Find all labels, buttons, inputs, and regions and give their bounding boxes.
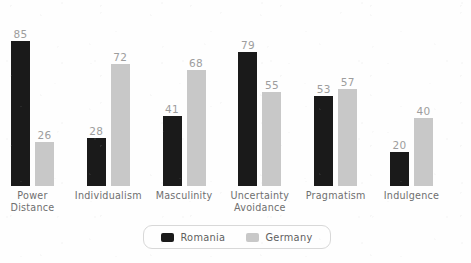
bar-germany-power-distance[interactable]: 26 (35, 0, 54, 186)
bar-rect (390, 152, 409, 186)
bar-germany-indulgence[interactable]: 40 (414, 0, 433, 186)
bar-rect (163, 116, 182, 186)
chart-legend: Romania Germany (143, 225, 331, 249)
bar-value-label: 26 (23, 129, 67, 141)
bar-value-label: 40 (402, 105, 446, 117)
bar-germany-pragmatism[interactable]: 57 (338, 0, 357, 186)
legend-swatch-germany-icon (246, 233, 259, 242)
category-axis: Power DistanceIndividualismMasculinityUn… (0, 190, 471, 224)
bar-germany-individualism[interactable]: 72 (111, 0, 130, 186)
bar-value-label: 57 (326, 76, 370, 88)
legend-item-romania[interactable]: Romania (161, 232, 225, 243)
bar-rect (338, 89, 357, 186)
legend-label-germany: Germany (265, 232, 312, 243)
bar-romania-uncertainty-avoidance[interactable]: 79 (238, 0, 257, 186)
bar-rect (35, 142, 54, 186)
bar-rect (238, 52, 257, 186)
legend-swatch-romania-icon (161, 233, 174, 242)
bar-romania-indulgence[interactable]: 20 (390, 0, 409, 186)
bar-value-label: 72 (98, 51, 142, 63)
bar-romania-individualism[interactable]: 28 (87, 0, 106, 186)
bar-germany-uncertainty-avoidance[interactable]: 55 (262, 0, 281, 186)
bar-rect (414, 118, 433, 186)
bar-value-label: 68 (174, 57, 218, 69)
category-label: Indulgence (360, 190, 464, 202)
legend-label-romania: Romania (180, 232, 225, 243)
bar-germany-masculinity[interactable]: 68 (187, 0, 206, 186)
bar-rect (87, 138, 106, 186)
bar-romania-masculinity[interactable]: 41 (163, 0, 182, 186)
bar-chart: 852628724168795553572040 Power DistanceI… (0, 0, 471, 263)
plot-area: 852628724168795553572040 (0, 0, 471, 186)
bar-romania-power-distance[interactable]: 85 (11, 0, 30, 186)
bar-rect (262, 92, 281, 186)
bar-rect (11, 41, 30, 186)
bar-romania-pragmatism[interactable]: 53 (314, 0, 333, 186)
bar-value-label: 55 (250, 79, 294, 91)
bar-rect (187, 70, 206, 186)
legend-item-germany[interactable]: Germany (246, 232, 312, 243)
bar-rect (111, 64, 130, 186)
bar-rect (314, 96, 333, 186)
